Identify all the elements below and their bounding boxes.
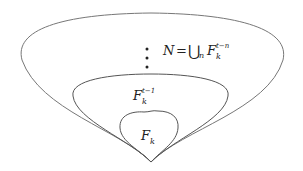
svg-text:k: k [142,97,147,106]
svg-text:N: N [162,43,175,58]
svg-text:k: k [150,137,155,146]
svg-text:k: k [216,52,221,61]
middle-set-label: F k t−1 [132,87,155,106]
svg-text:t−n: t−n [216,42,230,50]
ellipsis-dot [146,48,149,51]
inner-set-label: F k [140,128,155,146]
ellipsis-dot [146,66,149,69]
svg-text:n: n [199,51,204,60]
svg-text:t−1: t−1 [142,87,155,95]
nested-sets-diagram: N = ⋃ n F k t−n F k t−1 F k [0,0,303,171]
ellipsis-dot [146,57,149,60]
outer-set-label: N = ⋃ n F k t−n [162,42,230,61]
svg-text:=: = [176,43,187,58]
